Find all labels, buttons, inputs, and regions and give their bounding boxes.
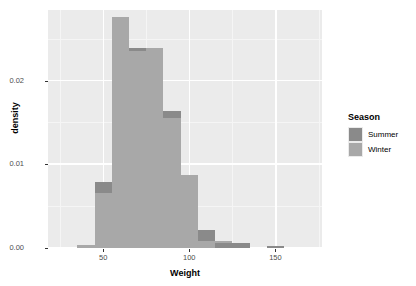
legend-item-label: Winter — [368, 145, 391, 154]
histogram-bar — [112, 17, 129, 248]
x-axis-tick-label: 50 — [88, 253, 118, 262]
histogram-bar — [146, 48, 163, 248]
y-axis-tick-mark — [45, 164, 48, 165]
x-axis-title: Weight — [48, 268, 322, 278]
histogram-bar — [232, 243, 249, 248]
x-axis-tick-label: 100 — [174, 253, 204, 262]
grid-line-minor-horizontal — [48, 122, 322, 123]
x-axis-tick-mark — [189, 249, 190, 252]
grid-line-minor-vertical — [232, 10, 233, 248]
legend-color-swatch — [349, 128, 362, 141]
histogram-bar — [163, 118, 180, 248]
x-axis-tick-mark — [103, 249, 104, 252]
grid-line-minor-vertical — [60, 10, 61, 248]
histogram-bar — [198, 241, 215, 248]
y-axis-title: density — [10, 73, 20, 163]
x-axis-tick-mark — [275, 249, 276, 252]
histogram-chart: 0.000.010.02 50100150 Weight density Sea… — [0, 0, 416, 286]
histogram-bar — [95, 193, 112, 248]
y-axis-tick-mark — [45, 248, 48, 249]
grid-line-major-horizontal — [48, 80, 322, 81]
legend-key-box — [348, 142, 363, 157]
legend-title: Season — [348, 112, 414, 122]
y-axis-tick-label: 0.00 — [9, 243, 24, 252]
legend-item-winter[interactable]: Winter — [348, 142, 414, 157]
legend-color-swatch — [349, 143, 362, 156]
legend-key-box — [348, 127, 363, 142]
legend-items: SummerWinter — [348, 127, 414, 157]
histogram-bar — [77, 245, 94, 248]
legend-item-summer[interactable]: Summer — [348, 127, 414, 142]
legend-item-label: Summer — [368, 130, 398, 139]
plot-panel — [48, 10, 322, 248]
legend: Season SummerWinter — [348, 112, 414, 157]
histogram-bar — [215, 243, 232, 248]
grid-line-major-vertical — [275, 10, 276, 248]
grid-line-minor-horizontal — [48, 39, 322, 40]
y-axis-tick-mark — [45, 81, 48, 82]
histogram-bar — [181, 175, 198, 248]
grid-line-major-horizontal — [48, 163, 322, 164]
grid-line-minor-vertical — [319, 10, 320, 248]
histogram-bar — [129, 51, 146, 248]
histogram-bar — [267, 246, 284, 248]
x-axis-tick-label: 150 — [260, 253, 290, 262]
